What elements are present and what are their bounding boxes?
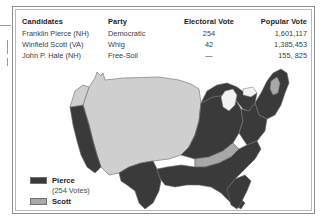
election-results-table: Candidates Party Electoral Vote Popular … xyxy=(22,17,307,61)
figure-inner: Candidates Party Electoral Vote Popular … xyxy=(13,7,314,213)
cell-popular-vote-pierce: 1,601,117 xyxy=(242,29,307,40)
cell-popular-vote-scott: 1,385,453 xyxy=(242,39,307,50)
table-row: Winfield Scott (VA) Whig 42 1,385,453 xyxy=(22,39,307,50)
legend-swatch-scott xyxy=(30,198,47,206)
edge-rule-mid xyxy=(7,40,8,54)
table-row: John P. Hale (NH) Free-Soil — 155, 825 xyxy=(22,50,307,61)
cell-electoral-vote-pierce: 254 xyxy=(176,29,242,40)
cell-party-pierce: Democratic xyxy=(108,29,176,40)
cell-candidate-hale: John P. Hale (NH) xyxy=(22,50,108,61)
legend-item-scott: Scott xyxy=(30,196,140,207)
map-legend: Pierce (254 Votes) Scott xyxy=(30,175,140,207)
map-region-western-territories xyxy=(83,72,201,175)
legend-swatch-pierce xyxy=(30,177,47,185)
column-header-party: Party xyxy=(108,17,176,29)
legend-label-scott: Scott xyxy=(52,197,71,206)
cell-electoral-vote-hale: — xyxy=(176,50,242,61)
edge-rule-bottom xyxy=(7,58,8,66)
cell-party-scott: Whig xyxy=(108,39,176,50)
column-header-candidates: Candidates xyxy=(22,17,108,29)
map-region-northeast xyxy=(255,69,289,119)
table-header-row: Candidates Party Electoral Vote Popular … xyxy=(22,17,307,29)
election-figure-frame: Candidates Party Electoral Vote Popular … xyxy=(12,6,315,214)
legend-sublabel-pierce-votes: (254 Votes) xyxy=(52,186,140,196)
table-row: Franklin Pierce (NH) Democratic 254 1,60… xyxy=(22,29,307,40)
cell-popular-vote-hale: 155, 825 xyxy=(242,50,307,61)
edge-rule-top xyxy=(0,25,11,26)
cell-candidate-scott: Winfield Scott (VA) xyxy=(22,39,108,50)
column-header-popular-vote: Popular Vote xyxy=(242,17,307,29)
page-edge-bleed xyxy=(0,0,12,224)
legend-label-pierce: Pierce xyxy=(52,176,75,185)
cell-party-hale: Free-Soil xyxy=(108,50,176,61)
cell-candidate-pierce: Franklin Pierce (NH) xyxy=(22,29,108,40)
column-header-electoral-vote: Electoral Vote xyxy=(176,17,242,29)
cell-electoral-vote-scott: 42 xyxy=(176,39,242,50)
legend-item-pierce: Pierce xyxy=(30,175,140,186)
